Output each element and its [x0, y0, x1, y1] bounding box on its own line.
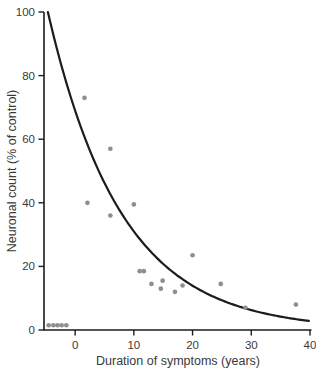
- data-point: [149, 282, 154, 287]
- data-point: [294, 302, 299, 307]
- data-point: [108, 146, 113, 151]
- x-axis-label: Duration of symptoms (years): [96, 354, 260, 368]
- data-point: [159, 286, 164, 291]
- data-point: [137, 269, 142, 274]
- x-tick-label: 30: [245, 339, 258, 351]
- data-point: [108, 213, 113, 218]
- data-point: [51, 323, 56, 328]
- trend-curve: [48, 12, 309, 321]
- x-tick-label: 40: [304, 339, 316, 351]
- data-point: [82, 96, 87, 101]
- data-point: [243, 305, 248, 310]
- y-tick-label: 40: [22, 197, 35, 209]
- x-tick-label: 20: [186, 339, 199, 351]
- y-axis-label: Neuronal count (% of control): [5, 90, 19, 253]
- data-point: [218, 282, 223, 287]
- axis-lines: [44, 12, 312, 330]
- data-point: [141, 269, 146, 274]
- data-point: [190, 253, 195, 258]
- x-tick-label: 10: [127, 339, 140, 351]
- y-tick-label: 60: [22, 133, 35, 145]
- data-point: [59, 323, 64, 328]
- tick-labels: 010203040020406080100: [16, 6, 316, 351]
- y-tick-label: 0: [29, 324, 35, 336]
- data-point: [85, 200, 90, 205]
- data-point: [160, 278, 165, 283]
- data-point: [173, 289, 178, 294]
- data-points: [46, 96, 298, 328]
- data-point: [46, 323, 51, 328]
- axes: [44, 12, 312, 330]
- y-tick-label: 100: [16, 6, 35, 18]
- data-point: [131, 202, 136, 207]
- tick-marks: [39, 12, 311, 336]
- x-tick-label: 0: [72, 339, 78, 351]
- scatter-figure: 010203040020406080100 Duration of sympto…: [0, 0, 316, 377]
- y-tick-label: 80: [22, 70, 35, 82]
- data-point: [64, 323, 69, 328]
- data-point: [180, 283, 185, 288]
- y-tick-label: 20: [22, 260, 35, 272]
- chart-svg: 010203040020406080100 Duration of sympto…: [0, 0, 316, 377]
- data-point: [55, 323, 60, 328]
